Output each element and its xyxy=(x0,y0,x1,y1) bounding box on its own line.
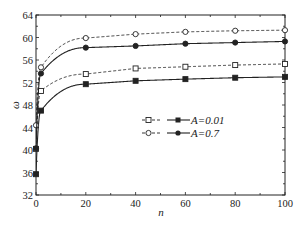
open-circle-marker-icon xyxy=(146,130,151,135)
open-square-marker-icon xyxy=(283,61,288,66)
filled-square-marker-icon xyxy=(83,82,88,87)
legend-label-a07: A=0.7 xyxy=(190,127,219,139)
filled-square-marker-icon xyxy=(176,118,181,123)
legend-entry-a07: A=0.7 xyxy=(142,127,219,139)
x-tick-label: 60 xyxy=(180,198,191,209)
open-circle-marker-icon xyxy=(33,123,38,128)
filled-square-marker-icon xyxy=(183,77,188,82)
y-tick-label: 36 xyxy=(23,168,34,179)
open-square-marker-icon xyxy=(38,88,43,93)
line-chart: 020406080100323640444852566064 A=0.01 A=… xyxy=(0,0,299,227)
filled-circle-marker-icon xyxy=(183,41,188,46)
legend: A=0.01 A=0.7 xyxy=(142,114,224,139)
y-tick-label: 60 xyxy=(23,33,34,44)
filled-circle-marker-icon xyxy=(282,39,287,44)
open-circle-marker-icon xyxy=(183,29,188,34)
filled-circle-marker-icon xyxy=(133,43,138,48)
y-tick-label: 32 xyxy=(23,190,34,201)
y-tick-label: 64 xyxy=(23,10,34,21)
filled-circle-marker-icon xyxy=(233,40,238,45)
open-square-marker-icon xyxy=(146,118,151,123)
series-line xyxy=(36,77,285,174)
filled-circle-marker-icon xyxy=(38,71,43,76)
y-tick-label: 40 xyxy=(23,145,34,156)
filled-square-marker-icon xyxy=(38,108,43,113)
open-circle-marker-icon xyxy=(233,28,238,33)
series-lines xyxy=(33,28,287,177)
open-square-marker-icon xyxy=(183,64,188,69)
filled-circle-marker-icon xyxy=(83,45,88,50)
x-axis-label: n xyxy=(158,206,164,218)
series-line xyxy=(36,41,285,148)
legend-entry-a001: A=0.01 xyxy=(142,114,224,126)
axes: 020406080100323640444852566064 xyxy=(23,10,293,209)
chart-svg: 020406080100323640444852566064 A=0.01 A=… xyxy=(0,0,299,227)
open-circle-marker-icon xyxy=(133,32,138,37)
y-tick-label: 56 xyxy=(23,55,34,66)
open-square-marker-icon xyxy=(133,66,138,71)
x-tick-label: 100 xyxy=(277,198,293,209)
y-tick-label: 44 xyxy=(23,123,34,134)
legend-label-a001: A=0.01 xyxy=(190,114,224,126)
open-square-marker-icon xyxy=(233,63,238,68)
filled-circle-marker-icon xyxy=(175,130,180,135)
series-line xyxy=(36,64,285,149)
y-tick-label: 52 xyxy=(23,78,34,89)
open-circle-marker-icon xyxy=(38,65,43,70)
x-tick-label: 0 xyxy=(33,198,38,209)
x-tick-label: 20 xyxy=(81,198,92,209)
filled-circle-marker-icon xyxy=(33,146,38,151)
x-tick-label: 40 xyxy=(130,198,141,209)
open-square-marker-icon xyxy=(83,72,88,77)
open-circle-marker-icon xyxy=(282,28,287,33)
filled-square-marker-icon xyxy=(233,75,238,80)
filled-square-marker-icon xyxy=(133,78,138,83)
filled-square-marker-icon xyxy=(283,74,288,79)
x-tick-label: 80 xyxy=(230,198,241,209)
y-axis-label: ω xyxy=(9,101,21,109)
open-circle-marker-icon xyxy=(83,35,88,40)
y-tick-label: 48 xyxy=(23,100,34,111)
filled-square-marker-icon xyxy=(34,172,39,177)
